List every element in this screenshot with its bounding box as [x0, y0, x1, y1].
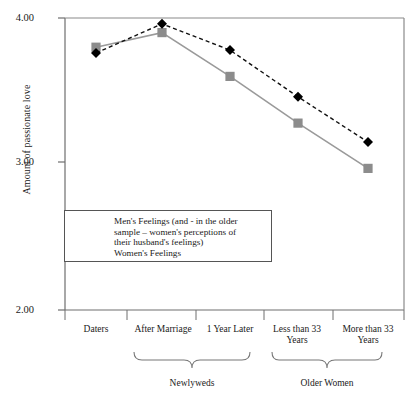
group-label-newlyweds: Newlyweds: [134, 378, 250, 388]
x-tick-label-after-marriage: After Marriage: [128, 324, 198, 335]
x-tick-label-less-line2: Years: [286, 335, 307, 345]
x-tick-label-less-line1: Less than 33: [273, 324, 321, 334]
x-tick-label-1-year-later: 1 Year Later: [196, 324, 264, 335]
data-point-womens-2: [225, 72, 234, 81]
data-point-mens-3: [293, 92, 303, 102]
group-bracket-newlyweds: [134, 352, 250, 368]
series-line-mens-feelings: [96, 24, 368, 142]
legend-label-mens-feelings: Men's Feelings (and - in the older sampl…: [114, 216, 266, 248]
group-label-older-women: Older Women: [272, 378, 382, 388]
data-point-mens-4: [363, 137, 373, 147]
data-point-womens-1: [157, 28, 166, 37]
chart-container: Amount of passionate love 4.00 3.00 2.00: [0, 0, 416, 399]
series-markers-mens-feelings: [91, 19, 373, 147]
data-point-womens-3: [293, 119, 302, 128]
data-point-mens-1: [157, 19, 167, 29]
x-tick-label-less-than-33-years: Less than 33Years: [262, 324, 332, 346]
x-tick-label-daters: Daters: [64, 324, 128, 335]
x-tick-label-more-than-33-years: More than 33Years: [332, 324, 404, 346]
legend-label-womens-feelings: Women's Feelings: [114, 248, 266, 259]
group-bracket-older-women: [272, 352, 382, 368]
x-tick-label-more-line1: More than 33: [342, 324, 393, 334]
data-point-womens-4: [363, 164, 372, 173]
data-point-mens-2: [225, 45, 235, 55]
x-tick-label-more-line2: Years: [357, 335, 378, 345]
